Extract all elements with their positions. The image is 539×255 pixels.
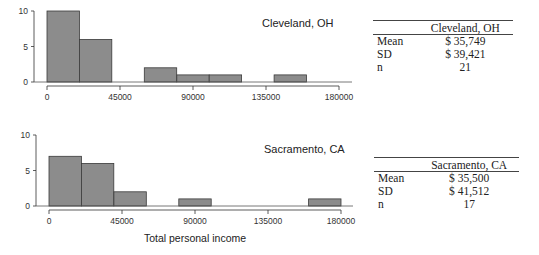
sacramento-histogram: 10 5 0 0 45000 90000 135000 180000 Sacra…: [21, 130, 356, 244]
y-tick-label: 5: [23, 42, 28, 52]
x-tick-label: 0: [45, 92, 50, 102]
histogram-bar: [81, 163, 113, 206]
histogram-bar: [79, 39, 111, 82]
row-label: Mean: [373, 35, 418, 49]
cleveland-stats-table: Cleveland, OH Mean $ 35,749 SD $ 39,421 …: [373, 20, 513, 74]
row-value: $ 39,421: [418, 48, 513, 61]
sacramento-bars: [49, 156, 341, 206]
row-label: SD: [374, 185, 419, 198]
x-tick-label: 0: [47, 216, 52, 226]
y-tick-label: 0: [23, 77, 28, 87]
histogram-bar: [179, 199, 211, 206]
row-label: n: [373, 61, 418, 74]
table-row: Mean $ 35,749: [373, 35, 513, 49]
y-tick-label: 0: [25, 201, 30, 211]
row-value: 21: [418, 61, 513, 74]
row-label: n: [374, 198, 419, 211]
x-tick-label: 45000: [110, 216, 134, 226]
table-row: SD $ 39,421: [373, 48, 513, 61]
table-header: Cleveland, OH: [418, 21, 513, 35]
x-tick-label: 180000: [325, 92, 354, 102]
x-tick-label: 135000: [254, 216, 283, 226]
cleveland-histogram: 10 5 0 0 45000 90000 135000 180000 Cleve…: [19, 6, 354, 102]
row-value: $ 35,749: [418, 35, 513, 49]
row-value: $ 41,512: [419, 185, 519, 198]
x-tick-label: 45000: [108, 92, 132, 102]
x-tick-label: 135000: [252, 92, 281, 102]
histogram-bar: [144, 68, 176, 82]
row-label: SD: [373, 48, 418, 61]
histogram-bar: [209, 75, 241, 82]
row-value: $ 35,500: [419, 172, 519, 186]
x-tick-label: 180000: [327, 216, 356, 226]
table-row: n 17: [374, 198, 519, 211]
y-tick-label: 5: [25, 166, 30, 176]
table-row: n 21: [373, 61, 513, 74]
table-header-blank: [373, 21, 418, 35]
histogram-bar: [309, 199, 341, 206]
x-axis-label: Total personal income: [144, 232, 246, 244]
histogram-bar: [274, 75, 306, 82]
table-header: Sacramento, CA: [419, 158, 519, 172]
histogram-bar: [47, 11, 79, 82]
table-row: Mean $ 35,500: [374, 172, 519, 186]
histogram-bar: [49, 156, 81, 206]
x-tick-label: 90000: [181, 92, 205, 102]
histogram-bar: [114, 192, 146, 206]
histogram-bar: [177, 75, 209, 82]
sacramento-stats-table: Sacramento, CA Mean $ 35,500 SD $ 41,512…: [374, 157, 519, 211]
y-tick-label: 10: [19, 6, 29, 16]
x-tick-label: 90000: [183, 216, 207, 226]
row-value: 17: [419, 198, 519, 211]
row-label: Mean: [374, 172, 419, 186]
table-header-blank: [374, 158, 419, 172]
y-tick-label: 10: [21, 130, 31, 140]
table-row: SD $ 41,512: [374, 185, 519, 198]
city-label: Sacramento, CA: [264, 143, 345, 155]
city-label: Cleveland, OH: [262, 17, 334, 29]
